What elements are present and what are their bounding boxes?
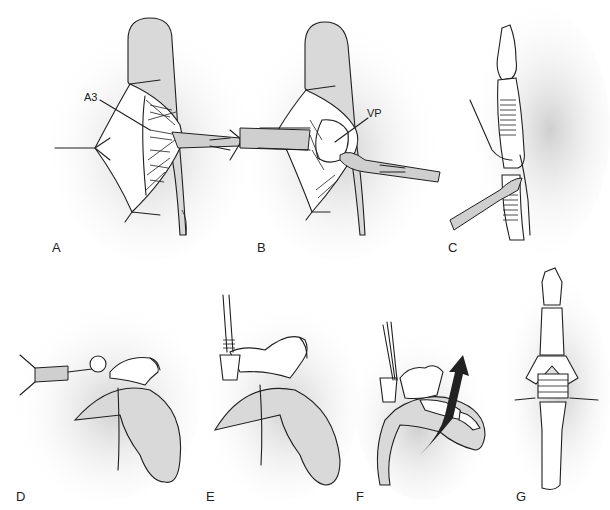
panel-label-f: F [356,489,364,504]
panel-d-illustration [0,260,195,510]
panel-e-illustration [195,260,355,510]
panel-g-illustration [490,260,610,510]
panel-b: VP B [240,0,440,260]
panel-f: F [355,260,490,510]
panel-label-e: E [206,489,215,504]
panel-a: A3 A [0,0,240,260]
panel-label-a: A [52,240,61,255]
panel-e: E [195,260,355,510]
panel-label-c: C [448,240,457,255]
panel-label-d: D [16,489,25,504]
panel-label-b: B [257,240,266,255]
panel-c-illustration [440,0,610,260]
panel-f-illustration [355,260,490,510]
panel-d: D [0,260,195,510]
panel-c: C [440,0,610,260]
panel-a-illustration [0,0,240,260]
callout-vp: VP [367,107,382,119]
panel-label-g: G [516,489,526,504]
callout-a3: A3 [84,91,97,103]
panel-g: G [490,260,610,510]
panel-b-illustration [240,0,440,260]
